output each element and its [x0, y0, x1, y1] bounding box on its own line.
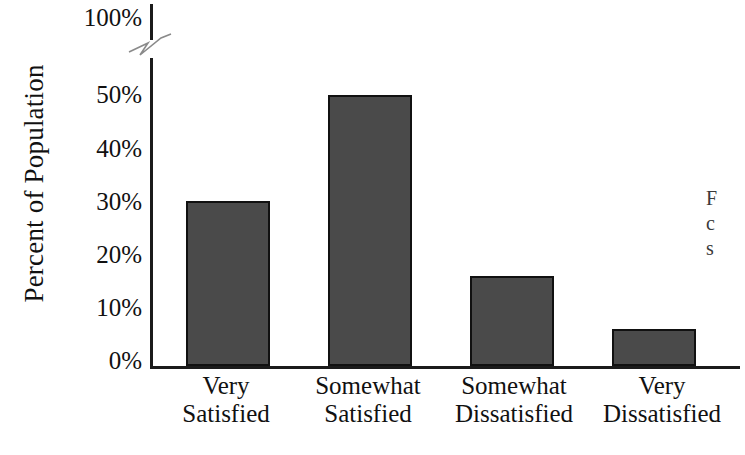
x-label-line-1: Somewhat — [292, 372, 444, 400]
bar-chart: Percent of Population 100% 50% 40% 30% 2… — [0, 0, 745, 455]
x-label-line-2: Satisfied — [150, 400, 302, 428]
bar-somewhat-dissatisfied — [470, 276, 554, 366]
x-label-line-1: Somewhat — [434, 372, 594, 400]
x-label-line-2: Satisfied — [292, 400, 444, 428]
bar-very-dissatisfied — [612, 329, 696, 366]
side-caption-line-3: s — [706, 236, 745, 261]
x-label-somewhat-dissatisfied: Somewhat Dissatisfied — [434, 372, 594, 428]
x-label-somewhat-satisfied: Somewhat Satisfied — [292, 372, 444, 428]
side-caption-line-2: c — [706, 211, 745, 236]
side-caption-clipped: F c s — [706, 186, 745, 261]
x-label-line-1: Very — [150, 372, 302, 400]
x-label-line-2: Dissatisfied — [434, 400, 594, 428]
x-label-line-2: Dissatisfied — [582, 400, 742, 428]
x-label-very-dissatisfied: Very Dissatisfied — [582, 372, 742, 428]
side-caption-line-1: F — [706, 186, 745, 211]
x-label-line-1: Very — [582, 372, 742, 400]
x-axis-labels: Very Satisfied Somewhat Satisfied Somewh… — [150, 372, 740, 452]
bar-somewhat-satisfied — [328, 95, 412, 366]
bar-very-satisfied — [186, 201, 270, 366]
x-label-very-satisfied: Very Satisfied — [150, 372, 302, 428]
